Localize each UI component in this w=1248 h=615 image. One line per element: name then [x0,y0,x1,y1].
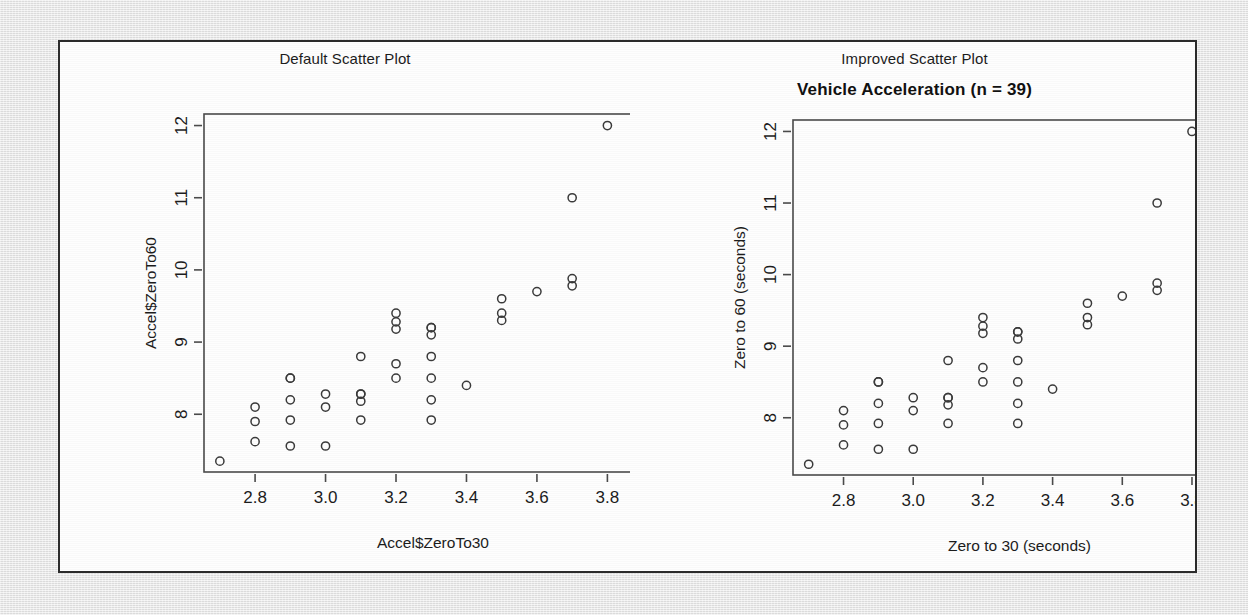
data-point [874,419,882,427]
x-tick-label: 3.8 [596,488,620,507]
data-point [462,381,470,389]
y-tick-label: 11 [762,194,781,212]
data-point [321,442,329,450]
default-scatter-svg: 2.83.03.23.43.63.889101112Accel$ZeroTo60… [60,42,630,573]
data-point [286,442,294,450]
x-tick-label: 3.0 [314,488,338,507]
data-points [216,121,630,465]
data-point [979,364,987,372]
y-tick-label: 9 [762,341,781,350]
data-point [979,313,987,321]
data-point [427,396,435,404]
data-point [839,421,847,429]
data-point [357,416,365,424]
data-point [839,441,847,449]
data-point [909,394,917,402]
data-point [1014,419,1022,427]
data-point [251,438,259,446]
data-point [392,360,400,368]
data-point [251,417,259,425]
data-point [1014,399,1022,407]
x-axis-title: Accel$ZeroTo30 [377,534,489,551]
data-point [1014,356,1022,364]
data-point [1118,292,1126,300]
data-point [603,121,611,129]
data-point [533,287,541,295]
data-point [357,352,365,360]
data-point [251,403,259,411]
data-point [321,403,329,411]
data-point [498,295,506,303]
data-point [874,399,882,407]
plot-box [793,120,1197,475]
data-point [286,374,294,382]
data-point [874,445,882,453]
x-axis-title: Zero to 30 (seconds) [948,537,1091,554]
data-point [392,309,400,317]
x-tick-label: 3.2 [971,491,995,510]
data-point [805,460,813,468]
y-tick-label: 12 [173,116,192,135]
y-tick-label: 9 [173,337,192,346]
plot-box [204,114,630,472]
x-tick-label: 3.8 [1180,491,1197,510]
y-tick-label: 10 [762,265,781,284]
x-tick-label: 3.0 [901,491,925,510]
improved-scatter-plot: Improved Scatter Plot Vehicle Accelerati… [630,42,1197,573]
x-tick-label: 3.2 [384,488,408,507]
data-point [1083,299,1091,307]
data-point [286,416,294,424]
y-axis-title: Zero to 60 (seconds) [731,226,748,369]
x-tick-label: 3.4 [1041,491,1065,510]
x-tick-label: 3.4 [455,488,479,507]
data-point [427,416,435,424]
chart-main-title: Vehicle Acceleration (n = 39) [630,80,1197,100]
data-point [979,378,987,386]
data-point [427,352,435,360]
data-point [216,457,224,465]
y-tick-label: 11 [173,189,192,207]
x-tick-label: 3.6 [525,488,549,507]
x-tick-label: 2.8 [243,488,267,507]
improved-scatter-svg: 2.83.03.23.43.63.889101112Zero to 60 (se… [630,42,1197,573]
data-point [909,406,917,414]
x-tick-label: 3.6 [1110,491,1134,510]
data-point [1153,199,1161,207]
default-scatter-plot: Default Scatter Plot 2.83.03.23.43.63.88… [60,42,630,573]
data-point [839,406,847,414]
y-tick-label: 12 [762,122,781,141]
right-panel-heading: Improved Scatter Plot [630,50,1197,67]
x-tick-label: 2.8 [832,491,856,510]
y-axis-title: Accel$ZeroTo60 [142,237,159,349]
data-point [1014,378,1022,386]
data-point [944,419,952,427]
data-point [1049,385,1057,393]
data-point [1188,127,1196,135]
data-point [321,390,329,398]
data-points [805,127,1197,468]
data-point [286,396,294,404]
left-panel-heading: Default Scatter Plot [60,50,630,67]
data-point [568,194,576,202]
data-point [392,374,400,382]
figure-panel: Default Scatter Plot 2.83.03.23.43.63.88… [58,40,1197,573]
y-tick-label: 8 [762,413,781,422]
data-point [909,445,917,453]
data-point [874,378,882,386]
data-point [427,374,435,382]
data-point [944,356,952,364]
y-tick-label: 8 [173,410,192,419]
y-tick-label: 10 [173,260,192,279]
